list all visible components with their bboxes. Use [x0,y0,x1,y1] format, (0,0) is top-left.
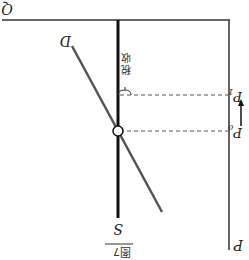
tax-label-line1: 税 [121,64,131,76]
figure-caption: 图7 [113,245,131,258]
supply-label: S [113,221,123,237]
equilibrium-point [113,126,123,136]
p-axis-label: P [233,237,244,253]
p1-label: P1 [228,87,243,104]
tax-label-line2: 收 [121,52,131,64]
q-axis-label: Q [1,1,13,17]
supply-demand-diagram: P Q P0 P1 S D 税 收 图7 [0,0,249,260]
tax-brace-icon [118,87,131,95]
demand-label: D [60,33,72,49]
p0-label: P0 [228,123,243,140]
